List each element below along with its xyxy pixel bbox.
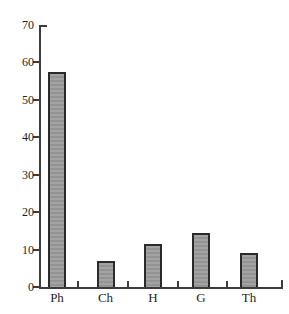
x-category-label: Th: [199, 291, 289, 305]
y-tick-label: 50: [4, 94, 34, 106]
bar-th: [240, 253, 258, 287]
y-tick-label: 10: [4, 244, 34, 256]
bar-ch: [97, 261, 115, 287]
x-tick: [177, 281, 179, 287]
y-tick-label: 40: [4, 131, 34, 143]
y-tick-label: 60: [4, 56, 34, 68]
x-axis-end-cap-tick: [281, 280, 283, 287]
bar-chart: 010203040506070PhChHGTh: [0, 0, 289, 314]
bar-h: [144, 244, 162, 287]
y-tick-label: 70: [4, 19, 34, 31]
x-tick: [226, 281, 228, 287]
x-tick: [127, 281, 129, 287]
x-tick: [77, 281, 79, 287]
y-tick-label: 30: [4, 169, 34, 181]
y-axis-top-cap-tick: [41, 25, 47, 27]
y-tick-label: 20: [4, 206, 34, 218]
bar-ph: [48, 72, 66, 287]
bar-g: [192, 233, 210, 287]
plot-area: [39, 25, 283, 289]
